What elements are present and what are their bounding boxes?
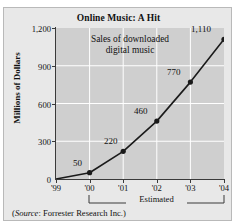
x-tick-label-04: '04 bbox=[210, 183, 235, 193]
y-tick-label-300: 300 bbox=[7, 137, 51, 147]
plot-annotation-line-1: Sales of downloaded bbox=[70, 34, 190, 45]
gridlines-horizontal bbox=[56, 66, 224, 142]
x-tick-label-01: '01 bbox=[109, 183, 137, 193]
y-tick-label-900: 900 bbox=[7, 62, 51, 72]
source-rest: : Forrester Research Inc.) bbox=[38, 208, 125, 218]
data-point-markers bbox=[87, 37, 224, 176]
point-label-220: 220 bbox=[104, 136, 118, 146]
point-label-1110: 1,110 bbox=[191, 24, 211, 34]
plot-annotation-line-2: digital music bbox=[70, 45, 190, 56]
y-tick-label-1200: 1,200 bbox=[7, 24, 51, 34]
y-tick-label-600: 600 bbox=[7, 100, 51, 110]
source-word: Source bbox=[15, 208, 39, 218]
estimated-label: Estimated bbox=[88, 194, 225, 204]
point-label-460: 460 bbox=[134, 106, 148, 116]
point-label-770: 770 bbox=[167, 67, 181, 77]
chart-figure: Online Music: A Hit Millions of Dollars … bbox=[3, 7, 232, 221]
x-axis-line bbox=[55, 179, 225, 180]
source-line: (Source: Forrester Research Inc.) bbox=[12, 208, 126, 218]
x-tick-label-00: '00 bbox=[76, 183, 104, 193]
x-tick-label-99: '99 bbox=[42, 183, 70, 193]
y-axis-title: Millions of Dollars bbox=[12, 41, 22, 135]
chart-title: Online Music: A Hit bbox=[4, 13, 233, 23]
x-tick-label-03: '03 bbox=[176, 183, 204, 193]
plot-annotation: Sales of downloaded digital music bbox=[70, 34, 190, 56]
point-label-50: 50 bbox=[73, 158, 82, 168]
y-axis-line bbox=[55, 27, 56, 180]
x-tick-label-02: '02 bbox=[143, 183, 171, 193]
